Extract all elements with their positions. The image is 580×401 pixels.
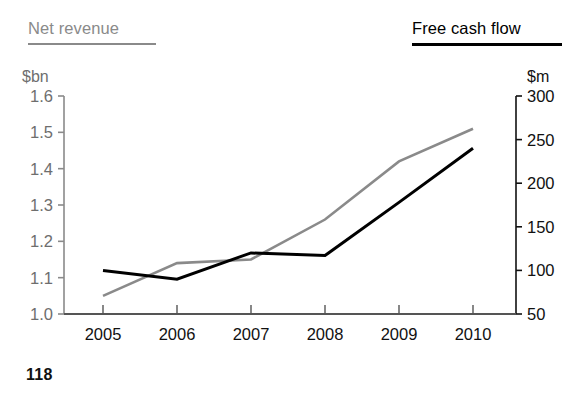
page-number: 118: [26, 366, 53, 384]
left-axis-tick-label: 1.1: [30, 269, 53, 287]
left-axis-tick-label: 1.4: [30, 160, 53, 178]
left-axis-tick-label: 1.0: [30, 305, 53, 323]
right-axis-tick-label: 150: [527, 218, 555, 236]
x-axis-tick-label: 2009: [381, 325, 418, 343]
x-axis: 200520062007200820092010: [64, 305, 516, 343]
series-lines: [103, 129, 473, 296]
x-axis-tick-label: 2005: [85, 325, 122, 343]
left-axis-tick-label: 1.2: [30, 232, 53, 250]
x-axis-tick-label: 2006: [159, 325, 196, 343]
left-axis-tick-label: 1.6: [30, 87, 53, 105]
left-axis: 1.01.11.21.31.41.51.6: [30, 87, 64, 323]
series-line-free-cash-flow: [103, 148, 473, 279]
right-axis-tick-label: 250: [527, 131, 555, 149]
x-axis-tick-label: 2010: [455, 325, 492, 343]
x-axis-tick-label: 2007: [233, 325, 270, 343]
line-chart: 1.01.11.21.31.41.51.6 50100150200250300 …: [0, 0, 580, 401]
right-axis-tick-label: 300: [527, 87, 555, 105]
left-axis-tick-label: 1.5: [30, 123, 53, 141]
right-axis-tick-label: 100: [527, 261, 555, 279]
right-axis: 50100150200250300: [516, 87, 555, 323]
right-axis-tick-label: 200: [527, 174, 555, 192]
series-line-net-revenue: [103, 129, 473, 296]
right-axis-tick-label: 50: [527, 305, 545, 323]
x-axis-tick-label: 2008: [307, 325, 344, 343]
left-axis-tick-label: 1.3: [30, 196, 53, 214]
chart-page: Net revenue Free cash flow $bn $m 1.01.1…: [0, 0, 580, 401]
